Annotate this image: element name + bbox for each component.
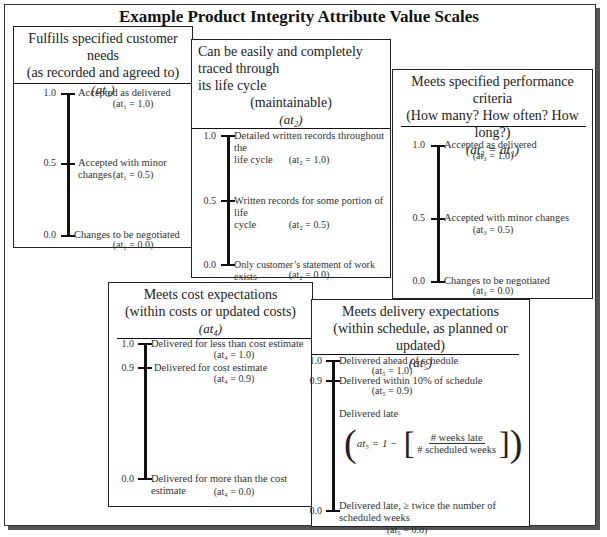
- scale-tick: [431, 218, 445, 220]
- scale-value: 0.5: [403, 212, 425, 223]
- scale-value: 0.0: [403, 275, 425, 286]
- scale-value: 1.0: [34, 87, 56, 98]
- scale-equation: (at₁ = 1.0): [78, 98, 188, 109]
- scale-label: scheduled weeks: [339, 512, 524, 524]
- scale-value: 0.0: [194, 259, 216, 270]
- scale-equation: (at₁ = 0.0): [78, 239, 188, 250]
- scale-label: Written records for some portion of life: [234, 195, 389, 219]
- scale-label: Delivered late, ≥ twice the number of: [339, 500, 524, 512]
- diagram-title: Example Product Integrity Attribute Valu…: [0, 7, 598, 27]
- box-heading-line: (within costs or updated costs): [109, 303, 312, 320]
- scale-tick: [138, 478, 152, 480]
- scale-axis: [437, 145, 440, 282]
- box-heading-line: its life cycle: [198, 77, 390, 94]
- open-bracket: [: [404, 427, 415, 459]
- scale-value: 0.9: [300, 375, 322, 386]
- scale-equation: (at₂ = 0.0): [234, 269, 384, 280]
- scale-box-at3: Meets specified performance criteria (Ho…: [392, 69, 593, 299]
- scale-tick: [326, 360, 340, 362]
- scale-label: Delivered for more than the cost: [151, 473, 301, 485]
- box-symbol: (at₄): [109, 320, 312, 337]
- scale-equation: (at₃ = 0.0): [453, 285, 533, 296]
- box-symbol: (at₂): [192, 111, 390, 128]
- scale-box-at2: Can be easily and completely traced thro…: [191, 39, 391, 278]
- scale-equation: (at₄ = 0.0): [189, 486, 279, 497]
- scale-tick: [61, 163, 75, 165]
- fraction: # weeks late # scheduled weeks: [417, 432, 496, 455]
- scale-value: 0.9: [112, 362, 134, 373]
- scale-tick: [221, 264, 235, 266]
- box-heading-line: Meets delivery expectations: [312, 303, 529, 320]
- scale-box-at1: Fulfills specified customer needs (as re…: [13, 26, 193, 248]
- scale-value: 0.0: [112, 473, 134, 484]
- scale-tick: [221, 135, 235, 137]
- box-heading-line: (as recorded and agreed to): [14, 64, 192, 81]
- scale-equation: (at₁ = 0.5): [78, 169, 188, 180]
- scale-tick: [431, 145, 445, 147]
- scale-tick: [326, 380, 340, 382]
- close-bracket: ]: [499, 427, 510, 459]
- scale-equation: (at₄ = 1.0): [189, 349, 279, 360]
- close-paren: ): [510, 424, 523, 462]
- scale-tick: [326, 510, 340, 512]
- box-heading-line: (maintainable): [192, 94, 390, 111]
- box-heading-line: (within schedule, as planned or updated): [312, 320, 529, 354]
- scale-box-at5: Meets delivery expectations (within sche…: [311, 299, 530, 527]
- late-label: Delivered late: [339, 408, 398, 420]
- scale-tick: [138, 367, 152, 369]
- scale-equation: (at₂ = 1.0): [234, 154, 384, 165]
- box-heading-line: Meets cost expectations: [109, 286, 312, 303]
- box-heading-line: (How many? How often? How long?): [393, 107, 592, 141]
- scale-tick: [221, 200, 235, 202]
- scale-label: Detailed written records throughout the: [234, 130, 389, 154]
- scale-value: 0.5: [34, 157, 56, 168]
- late-formula: ( at₅ = 1 − [ # weeks late # scheduled w…: [344, 424, 522, 462]
- scale-tick: [61, 235, 75, 237]
- denominator: # scheduled weeks: [417, 444, 496, 455]
- scale-tick: [61, 93, 75, 95]
- scale-label: Accepted with minor changes: [444, 212, 569, 224]
- scale-equation: (at₂ = 0.5): [234, 219, 384, 230]
- scale-value: 0.0: [34, 229, 56, 240]
- box-heading-line: Meets specified performance criteria: [393, 73, 592, 107]
- scale-tick: [431, 281, 445, 283]
- divider: [14, 83, 192, 84]
- scale-axis: [332, 360, 335, 511]
- scale-tick: [138, 343, 152, 345]
- scale-equation: (at₃ = 1.0): [453, 150, 533, 161]
- box-heading-line: Fulfills specified customer needs: [14, 30, 192, 64]
- scale-axis: [144, 343, 147, 479]
- divider: [401, 126, 586, 127]
- scale-value: 0.0: [300, 505, 322, 516]
- scale-value: 1.0: [300, 355, 322, 366]
- scale-value: 1.0: [194, 130, 216, 141]
- scale-equation: (at₅ = 0.9): [352, 385, 432, 396]
- scale-equation: (at₃ = 0.5): [453, 224, 533, 235]
- box-heading-line: Can be easily and completely traced thro…: [198, 43, 390, 77]
- scale-equation: (at₅ = 0.0): [367, 524, 447, 535]
- open-paren: (: [344, 424, 357, 462]
- formula-lhs: at₅ = 1 −: [357, 437, 398, 449]
- scale-value: 1.0: [112, 338, 134, 349]
- scale-box-at4: Meets cost expectations (within costs or…: [108, 282, 313, 507]
- scale-value: 1.0: [403, 139, 425, 150]
- divider: [192, 128, 390, 129]
- scale-equation: (at₄ = 0.9): [189, 373, 279, 384]
- scale-axis: [67, 93, 70, 236]
- numerator: # weeks late: [429, 432, 485, 444]
- scale-value: 0.5: [194, 195, 216, 206]
